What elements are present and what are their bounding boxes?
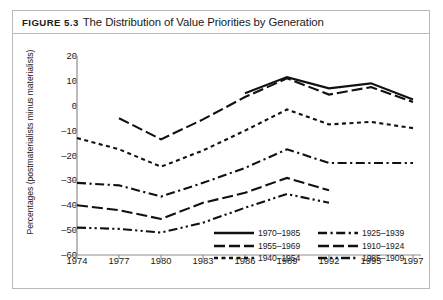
chart-plot-area: Percentages (postmaterialists minus mate… [13, 34, 429, 289]
x-tick-label: 1980 [141, 255, 181, 266]
figure-caption: Figure 5.3 The Distribution of Value Pri… [13, 11, 429, 34]
figure-container: Figure 5.3 The Distribution of Value Pri… [12, 10, 430, 289]
legend-item[interactable]: 1970–1985 [212, 227, 312, 240]
legend-line-swatch [316, 228, 360, 238]
legend-line-swatch [316, 241, 360, 251]
legend-item[interactable]: 1940–1954 [212, 252, 312, 265]
chart-legend: 1970–19851955–19691940–1954 1925–1939191… [212, 227, 417, 267]
legend-line-swatch [212, 241, 256, 251]
legend-label: 1970–1985 [256, 228, 300, 238]
figure-title: The Distribution of Value Priorities by … [83, 16, 324, 28]
legend-label: 1910–1924 [360, 241, 404, 251]
legend-column-right: 1925–19391910–19241985–1909 [316, 227, 416, 265]
series-line-2 [77, 109, 413, 166]
legend-label: 1925–1939 [360, 228, 404, 238]
legend-line-swatch [212, 253, 256, 263]
legend-line-swatch [212, 228, 256, 238]
x-tick-label: 1977 [99, 255, 139, 266]
legend-item[interactable]: 1910–1924 [316, 240, 416, 253]
legend-label: 1985–1909 [360, 253, 404, 263]
legend-item[interactable]: 1925–1939 [316, 227, 416, 240]
legend-line-swatch [316, 253, 360, 263]
legend-label: 1940–1954 [256, 253, 300, 263]
legend-column-left: 1970–19851955–19691940–1954 [212, 227, 312, 265]
x-tick-label: 1974 [57, 255, 97, 266]
legend-item[interactable]: 1955–1969 [212, 240, 312, 253]
chart-series-group [77, 77, 413, 232]
series-line-0 [245, 77, 413, 99]
legend-label: 1955–1969 [256, 241, 300, 251]
legend-item[interactable]: 1985–1909 [316, 252, 416, 265]
series-line-3 [77, 149, 413, 196]
series-line-1 [119, 78, 413, 139]
series-line-4 [77, 178, 329, 219]
